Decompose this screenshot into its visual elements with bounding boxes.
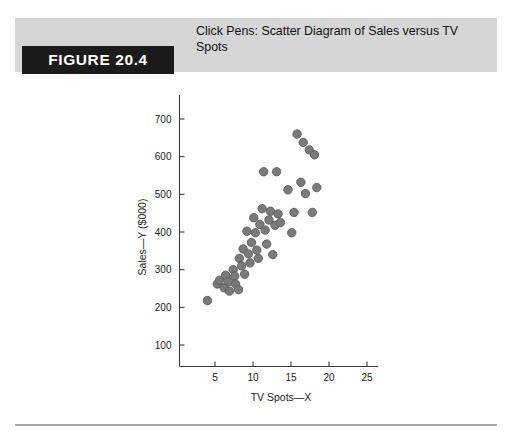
scatter-point [234,285,242,293]
scatter-plot-svg: 100200300400500600700510152025 TV Spots—… [0,0,509,442]
x-tick-label: 5 [212,372,218,383]
scatter-point [293,130,301,138]
scatter-point [266,207,274,215]
scatter-point [276,218,284,226]
plot-tick-labels: 100200300400500600700510152025 [155,114,373,383]
scatter-point [253,246,261,254]
y-tick-label: 500 [155,189,172,200]
plot-axes [180,95,379,367]
scatter-point [250,213,258,221]
y-tick-label: 600 [155,151,172,162]
scatter-points [203,130,321,305]
x-tick-label: 15 [285,372,297,383]
scatter-point [244,250,252,258]
scatter-point [288,229,296,237]
scatter-chart: 100200300400500600700510152025 TV Spots—… [0,0,509,442]
x-tick-label: 10 [247,372,259,383]
figure-page: Click Pens: Scatter Diagram of Sales ver… [0,0,509,442]
scatter-point [246,259,254,267]
footer-divider [15,424,497,426]
scatter-point [262,240,270,248]
scatter-point [274,210,282,218]
scatter-point [258,204,266,212]
y-tick-label: 400 [155,227,172,238]
scatter-point [308,208,316,216]
scatter-point [240,270,248,278]
x-tick-label: 20 [323,372,335,383]
scatter-point [297,178,305,186]
scatter-point [231,272,239,280]
y-axis-title: Sales—Y ($000) [136,199,148,276]
scatter-point [310,151,318,159]
x-tick-label: 25 [361,372,373,383]
plot-ticks [180,119,368,367]
scatter-point [251,229,259,237]
scatter-point [254,254,262,262]
y-tick-label: 700 [155,114,172,125]
scatter-point [261,226,269,234]
scatter-point [269,250,277,258]
x-axis-title: TV Spots—X [251,391,312,403]
y-tick-label: 100 [155,340,172,351]
scatter-point [313,183,321,191]
scatter-point [299,138,307,146]
scatter-point [225,287,233,295]
scatter-point [247,238,255,246]
y-tick-label: 300 [155,264,172,275]
scatter-point [290,208,298,216]
scatter-point [259,168,267,176]
y-tick-label: 200 [155,302,172,313]
scatter-point [301,189,309,197]
scatter-point [243,227,251,235]
scatter-point [284,186,292,194]
scatter-point [203,296,211,304]
scatter-point [272,168,280,176]
scatter-point [237,262,245,270]
